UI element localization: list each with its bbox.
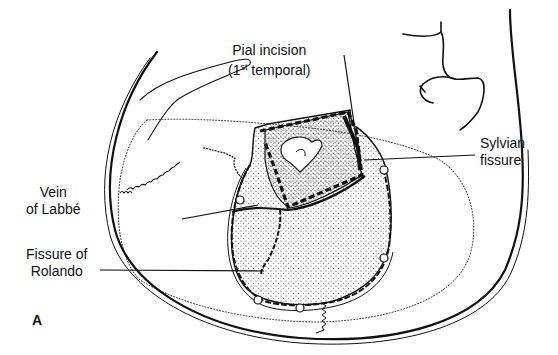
squiggle-vessel [127,162,180,190]
ear-vessel-drawing [403,22,484,130]
label-rolando-line2: Rolando [26,263,87,280]
label-sylvian-line2: fissure [480,152,525,169]
label-fissure-of-rolando: Fissure of Rolando [26,246,87,280]
label-pial-incision: Pial incision (1st temporal) [228,42,311,79]
anatomical-figure: Pial incision (1st temporal) Sylvian fis… [0,0,558,355]
label-rolando-line1: Fissure of [26,246,87,263]
label-pial-prefix: (1 [228,62,240,78]
exposed-cortex [228,110,393,333]
label-sylvian-line1: Sylvian [480,135,525,152]
label-labbe-line2: of Labbé [26,201,81,218]
label-sylvian-fissure: Sylvian fissure [480,135,525,169]
label-vein-of-labbe: Vein of Labbé [26,184,81,218]
panel-letter: A [32,312,42,328]
label-pial-suffix: temporal) [247,62,310,78]
label-labbe-line1: Vein [26,184,81,201]
label-pial-incision-line2: (1st temporal) [228,59,311,79]
label-pial-incision-line1: Pial incision [228,42,311,59]
